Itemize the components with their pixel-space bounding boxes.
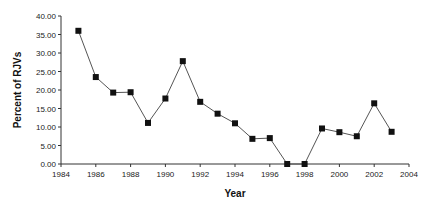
data-point-marker: [232, 120, 238, 126]
x-tick-label: 1996: [261, 170, 279, 179]
series-line: [78, 31, 391, 164]
data-point-marker: [267, 135, 273, 141]
x-tick-label: 1992: [191, 170, 209, 179]
data-point-marker: [371, 100, 377, 106]
data-point-marker: [128, 89, 134, 95]
x-axis: 1984198619881990199219941996199820002002…: [52, 164, 418, 179]
y-tick-label: 15.00: [36, 105, 57, 114]
data-point-marker: [319, 125, 325, 131]
data-point-marker: [93, 74, 99, 80]
data-point-marker: [302, 161, 308, 167]
chart-canvas: 0.005.0010.0015.0020.0025.0030.0035.0040…: [0, 0, 439, 209]
data-point-marker: [180, 58, 186, 64]
y-tick-label: 5.00: [40, 142, 56, 151]
data-point-marker: [249, 136, 255, 142]
x-tick-label: 2004: [400, 170, 418, 179]
data-point-marker: [110, 90, 116, 96]
data-point-marker: [215, 111, 221, 117]
data-series: [75, 28, 394, 167]
data-point-marker: [354, 133, 360, 139]
data-point-marker: [162, 96, 168, 102]
x-tick-label: 1988: [122, 170, 140, 179]
data-point-marker: [389, 129, 395, 135]
data-point-marker: [336, 129, 342, 135]
y-axis-title: Percent of RJVs: [12, 51, 23, 128]
x-tick-label: 2002: [365, 170, 383, 179]
x-tick-label: 1986: [87, 170, 105, 179]
y-tick-label: 30.00: [36, 49, 57, 58]
y-tick-label: 35.00: [36, 31, 57, 40]
y-axis: 0.005.0010.0015.0020.0025.0030.0035.0040…: [36, 12, 61, 169]
data-point-marker: [75, 28, 81, 34]
x-tick-label: 1998: [296, 170, 314, 179]
x-axis-title: Year: [224, 188, 245, 199]
x-tick-label: 1990: [157, 170, 175, 179]
y-tick-label: 25.00: [36, 68, 57, 77]
x-tick-label: 1984: [52, 170, 70, 179]
y-tick-label: 40.00: [36, 12, 57, 21]
data-point-marker: [145, 120, 151, 126]
y-tick-label: 20.00: [36, 86, 57, 95]
x-tick-label: 1994: [226, 170, 244, 179]
data-point-marker: [197, 99, 203, 105]
y-tick-label: 0.00: [40, 160, 56, 169]
line-chart: 0.005.0010.0015.0020.0025.0030.0035.0040…: [0, 0, 439, 209]
data-point-marker: [284, 161, 290, 167]
y-tick-label: 10.00: [36, 123, 57, 132]
x-tick-label: 2000: [331, 170, 349, 179]
